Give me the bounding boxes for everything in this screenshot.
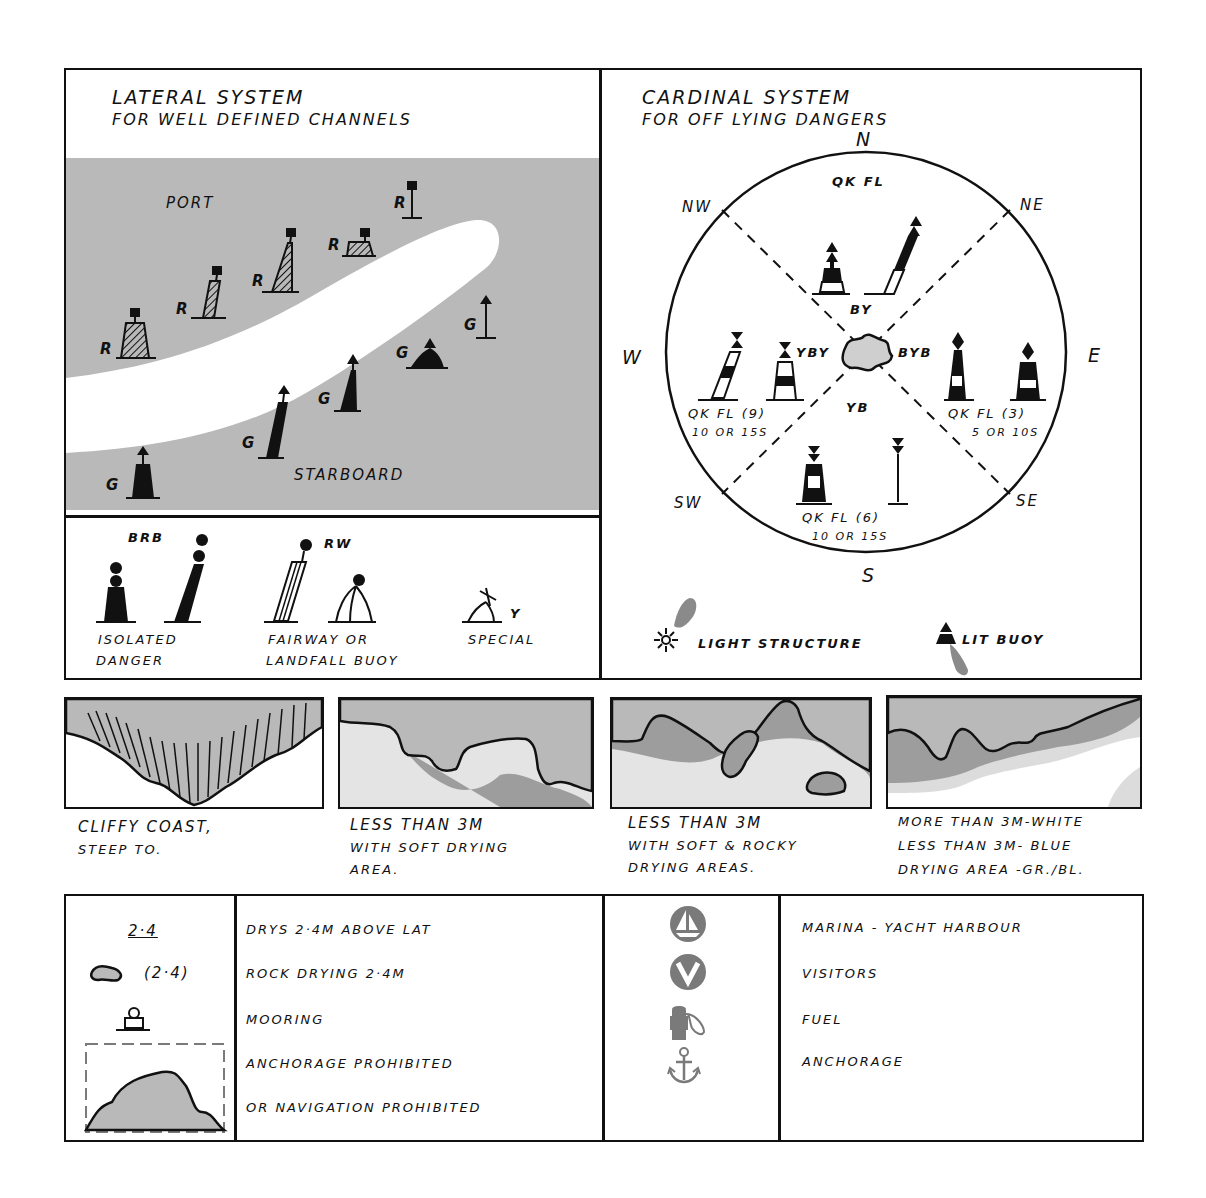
buoy-letter: R (328, 236, 342, 254)
coast-caption-4-line3: DRYING AREA -GR./BL. (898, 862, 1085, 877)
light-structure-icon (654, 598, 696, 652)
coast-panel-cliffy (64, 697, 324, 809)
coast-caption-2-line1: LESS THAN 3M (350, 816, 484, 834)
south-spar-buoy (888, 438, 908, 504)
west-period: 10 OR 15S (692, 426, 768, 439)
coast-panel-depth (886, 695, 1142, 809)
fairway-label-1: FAIRWAY OR (268, 632, 369, 647)
coast-caption-4-line1: MORE THAN 3M-WHITE (898, 814, 1084, 829)
dir-n: N (856, 128, 872, 150)
fairway-spherical-icon (328, 574, 376, 622)
prohibited-area-icon (82, 1042, 232, 1134)
dir-se: SE (1016, 492, 1039, 510)
starboard-buoy-conical-low (406, 338, 448, 368)
port-buoy-can (116, 308, 156, 358)
special-label: SPECIAL (468, 632, 535, 647)
coast-caption-3-line2: WITH SOFT & ROCKY (628, 838, 798, 853)
coast-caption-1-line2: STEEP TO. (78, 842, 162, 857)
buoy-letter: R (176, 300, 190, 318)
coast-panel-rocky (610, 697, 872, 809)
starboard-label: STARBOARD (294, 466, 404, 484)
dir-nw: NW (682, 198, 712, 216)
rock-icon (88, 962, 128, 986)
channel-map (66, 158, 599, 510)
cardinal-diagram (602, 70, 1140, 678)
fairway-code: RW (324, 536, 352, 551)
buoy-letter: G (318, 390, 332, 408)
mooring-icon (114, 1006, 154, 1036)
cliffy-coast-illustration (66, 699, 322, 807)
isolated-code: BRB (128, 530, 164, 545)
lit-buoy-icon (936, 622, 968, 675)
dir-e: E (1088, 344, 1102, 366)
legend-left-item: ANCHORAGE PROHIBITED (246, 1056, 454, 1071)
west-light: QK FL (9) (688, 406, 766, 421)
coast-caption-3-line3: DRYING AREAS. (628, 860, 756, 875)
legend-lit-buoy: LIT BUOY (962, 632, 1045, 647)
buoy-letter: R (100, 340, 114, 358)
south-can-buoy (796, 446, 832, 504)
port-buoy-pillar (262, 228, 299, 292)
legend-divider-2 (602, 894, 605, 1142)
north-pillar-buoy (864, 216, 922, 294)
legend-left-item: OR NAVIGATION PROHIBITED (246, 1100, 482, 1115)
cardinal-panel: CARDINAL SYSTEM FOR OFF LYING DANGERS (602, 70, 1140, 678)
west-colour: YBY (796, 345, 830, 360)
south-colour: YB (846, 400, 869, 415)
isolated-danger-pillar-icon (164, 534, 208, 622)
port-buoy-spar (191, 266, 226, 318)
east-pillar-buoy (944, 332, 974, 400)
sea-area: PORT STARBOARD R R R R R G G G G G (66, 158, 599, 510)
buoy-letter: G (396, 344, 410, 362)
west-pillar-buoy (698, 332, 743, 400)
legend-right-item: MARINA - YACHT HARBOUR (802, 920, 1023, 935)
starboard-buoy-conical (126, 446, 160, 498)
north-can-buoy (812, 242, 850, 294)
isolated-danger-can-icon (96, 562, 136, 622)
lateral-subtitle: FOR WELL DEFINED CHANNELS (112, 110, 412, 129)
buoy-letter: G (464, 316, 478, 334)
coast-caption-3-line1: LESS THAN 3M (628, 814, 762, 832)
soft-drying-illustration (340, 699, 592, 807)
east-can-buoy (1010, 342, 1046, 400)
north-colour: BY (850, 302, 873, 317)
other-marks-panel: BRB RW Y ISOLATED DANGER FAIRWAY OR LAND… (66, 518, 599, 678)
buoy-letter: G (242, 434, 256, 452)
south-light: QK FL (6) (802, 510, 880, 525)
buoy-letter: R (394, 194, 408, 212)
special-code: Y (510, 606, 521, 621)
dir-ne: NE (1020, 196, 1045, 214)
fairway-pillar-icon (264, 539, 312, 622)
coast-caption-2-line3: AREA. (350, 862, 399, 877)
lateral-panel: LATERAL SYSTEM FOR WELL DEFINED CHANNELS (66, 70, 599, 515)
port-buoy-can-low (342, 228, 376, 256)
coast-caption-4-line2: LESS THAN 3M- BLUE (898, 838, 1072, 853)
dir-sw: SW (674, 494, 702, 512)
rocky-drying-illustration (612, 699, 870, 807)
legend-right-item: VISITORS (802, 966, 878, 981)
legend-divider-1 (234, 894, 237, 1142)
fairway-label-2: LANDFALL BUOY (266, 653, 399, 668)
east-light: QK FL (3) (948, 406, 1026, 421)
east-period: 5 OR 10S (972, 426, 1039, 439)
buoy-letter: R (252, 272, 266, 290)
legend-divider-3 (778, 894, 781, 1142)
legend-right-item: FUEL (802, 1012, 842, 1027)
rock-drying-symbol: (2·4) (144, 964, 190, 982)
isolated-label-2: DANGER (96, 653, 164, 668)
depth-shading-illustration (888, 697, 1140, 807)
drying-height-symbol: 2·4 (128, 922, 158, 940)
danger-rock (843, 335, 892, 371)
north-light: QK FL (832, 174, 885, 189)
isolated-label-1: ISOLATED (98, 632, 178, 647)
east-colour: BYB (898, 345, 933, 360)
legend-left-item: ROCK DRYING 2·4M (246, 966, 406, 981)
south-period: 10 OR 15S (812, 530, 888, 543)
buoy-letter: G (106, 476, 120, 494)
dir-w: W (622, 346, 643, 368)
coast-panel-soft (338, 697, 594, 809)
dir-s: S (862, 564, 876, 586)
starboard-buoy-spar-2 (476, 295, 496, 338)
legend-left-item: MOORING (246, 1012, 324, 1027)
lateral-title: LATERAL SYSTEM (112, 86, 304, 108)
